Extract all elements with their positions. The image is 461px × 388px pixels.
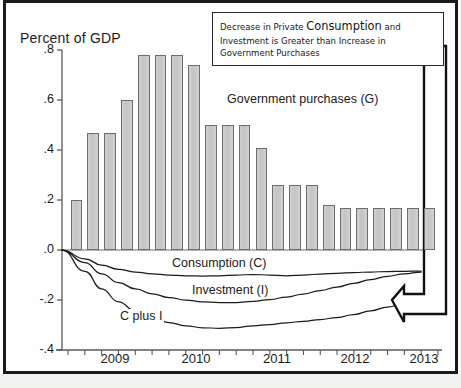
bar bbox=[289, 185, 301, 250]
bar bbox=[373, 208, 385, 251]
bar bbox=[138, 55, 150, 250]
x-axis-tick-label: 2009 bbox=[90, 351, 140, 366]
bar bbox=[205, 125, 217, 250]
x-axis-tick-label: 2011 bbox=[252, 351, 302, 366]
bar bbox=[390, 208, 402, 251]
x-axis-tick-label: 2012 bbox=[330, 351, 380, 366]
callout-text-emphasis: Consumption bbox=[306, 19, 381, 33]
bar bbox=[424, 208, 436, 251]
callout-arrow-icon bbox=[392, 46, 446, 322]
bar bbox=[323, 205, 335, 250]
bar bbox=[222, 125, 234, 250]
callout-text-lead: Decrease in Private bbox=[220, 22, 306, 32]
bar bbox=[155, 55, 167, 250]
y-axis-tick-label: .8 bbox=[28, 42, 54, 56]
y-axis-tick-label: .0 bbox=[28, 242, 54, 256]
bar bbox=[272, 185, 284, 250]
bar bbox=[87, 133, 99, 251]
x-axis-tick-label: 2010 bbox=[171, 351, 221, 366]
y-axis-tick-label: .4 bbox=[28, 142, 54, 156]
bar bbox=[306, 185, 318, 250]
y-axis-tick-label: .2 bbox=[28, 192, 54, 206]
series-label-consumption: Consumption (C) bbox=[170, 256, 268, 270]
bar bbox=[188, 65, 200, 250]
series-label-c-plus-i: C plus I bbox=[118, 309, 164, 323]
series-label-investment: Investment (I) bbox=[190, 283, 270, 297]
bar bbox=[171, 55, 183, 250]
x-axis-tick-label: 2013 bbox=[399, 351, 449, 366]
bar bbox=[256, 148, 268, 251]
series-label-government-purchases: Government purchases (G) bbox=[225, 92, 380, 106]
callout-box: Decrease in Private Consumption and Inve… bbox=[212, 12, 444, 66]
y-axis-tick-label: -.4 bbox=[28, 342, 54, 356]
bar bbox=[356, 208, 368, 251]
y-axis-tick-label: -.2 bbox=[28, 292, 54, 306]
bar bbox=[407, 208, 419, 251]
bar bbox=[71, 200, 83, 250]
callout-text: Decrease in Private Consumption and Inve… bbox=[220, 18, 437, 59]
chart-screenshot: Percent of GDP .8.6.4.2.0-.2-.4 20092010… bbox=[0, 0, 461, 388]
bar bbox=[340, 208, 352, 251]
y-axis-tick-label: .6 bbox=[28, 92, 54, 106]
bar bbox=[121, 100, 133, 250]
bar bbox=[239, 125, 251, 250]
bar bbox=[104, 133, 116, 251]
